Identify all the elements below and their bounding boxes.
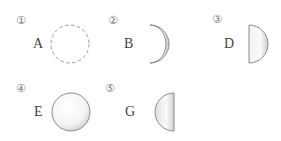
full-moon-e	[52, 93, 90, 131]
right-half-moon-d	[249, 25, 268, 63]
crescent-moon-b	[150, 25, 169, 63]
left-half-moon-g	[155, 93, 174, 131]
marker-3: ③	[212, 14, 222, 25]
label-e: E	[34, 105, 43, 119]
label-g: G	[125, 105, 135, 119]
label-d: D	[224, 37, 234, 51]
label-a: A	[33, 37, 43, 51]
marker-1: ①	[16, 15, 26, 26]
marker-5: ⑤	[105, 83, 115, 94]
moon-phase-figures	[0, 0, 281, 141]
marker-2: ②	[108, 15, 118, 26]
dashed-circle-a	[51, 25, 89, 63]
label-b: B	[124, 37, 133, 51]
marker-4: ④	[16, 83, 26, 94]
